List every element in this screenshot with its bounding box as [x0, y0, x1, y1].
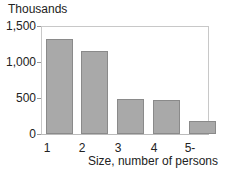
x-axis [41, 134, 209, 135]
y-tick-1500: 1,500 [0, 20, 36, 32]
y-tickmark [37, 26, 41, 27]
y-axis-unit-label: Thousands [8, 2, 67, 16]
x-tick-1: 1 [32, 141, 62, 155]
y-tickmark [37, 62, 41, 63]
y-tick-500: 500 [0, 92, 36, 104]
y-tick-0: 0 [0, 128, 36, 140]
x-tick-5: 5- [175, 141, 205, 155]
bar-3 [117, 99, 144, 134]
x-tick-4: 4 [139, 141, 169, 155]
bar-4 [153, 100, 180, 134]
y-tickmark [37, 98, 41, 99]
x-axis-title: Size, number of persons [88, 154, 218, 168]
bar-5- [189, 121, 216, 134]
x-tick-3: 3 [103, 141, 133, 155]
y-axis [41, 26, 42, 134]
bar-2 [81, 51, 108, 134]
y-tick-1000: 1,000 [0, 56, 36, 68]
bar-1 [46, 39, 73, 134]
x-tick-2: 2 [67, 141, 97, 155]
y-tickmark [37, 134, 41, 135]
